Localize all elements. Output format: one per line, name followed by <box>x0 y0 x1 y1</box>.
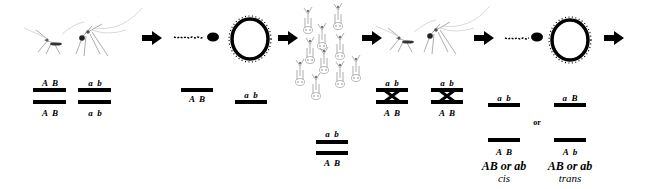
allele-label: a b <box>325 130 339 139</box>
offspring-cis-chromosomes <box>488 103 520 142</box>
allele-label: a b <box>244 91 258 100</box>
sperm-icon <box>174 33 219 42</box>
allele-label: A B <box>42 109 58 118</box>
mosquito-pair-icon <box>24 8 142 56</box>
arrow-right-icon <box>362 31 382 45</box>
larvae-group-icon <box>296 3 361 100</box>
allele-label: a b <box>88 79 102 88</box>
arrow-right-icon <box>142 31 162 45</box>
arrow-right-icon <box>604 31 624 45</box>
allele-label: a b <box>497 94 511 103</box>
parent-chromosome-pair-2 <box>78 88 111 104</box>
allele-label: A B <box>439 109 455 118</box>
mosquito-pair-icon <box>376 6 490 54</box>
crossover-chromosome-1 <box>376 88 408 104</box>
trans-phase-label: trans <box>559 173 582 184</box>
allele-label: A B <box>496 148 512 157</box>
arrow-right-icon <box>278 31 298 45</box>
egg-icon <box>549 17 591 63</box>
allele-label: a B <box>562 94 577 103</box>
gamete-chromosome-2 <box>235 100 267 104</box>
allele-label: a b <box>385 79 399 88</box>
f1-chromosome-pair <box>316 140 348 155</box>
egg-icon <box>229 16 271 62</box>
genetic-cross-diagram: A B A B a b a b A B a b a b A B a b A B … <box>0 0 651 189</box>
allele-label: A B <box>42 79 58 88</box>
offspring-trans-chromosomes <box>554 103 586 142</box>
cis-caption: AB or ab <box>482 160 527 172</box>
allele-label: A B <box>384 109 400 118</box>
allele-label: A B <box>189 95 205 104</box>
gamete-chromosome-1 <box>181 88 213 92</box>
allele-label: A B <box>324 159 340 168</box>
arrow-right-icon <box>474 31 494 45</box>
or-separator: or <box>533 119 541 127</box>
allele-label: a b <box>440 79 454 88</box>
crossover-chromosome-2 <box>431 88 463 104</box>
cis-phase-label: cis <box>498 173 510 184</box>
allele-label: A b <box>563 148 578 157</box>
sperm-icon <box>505 33 543 42</box>
trans-caption: AB or ab <box>548 160 593 172</box>
allele-label: a b <box>88 109 102 118</box>
parent-chromosome-pair-1 <box>33 88 66 104</box>
